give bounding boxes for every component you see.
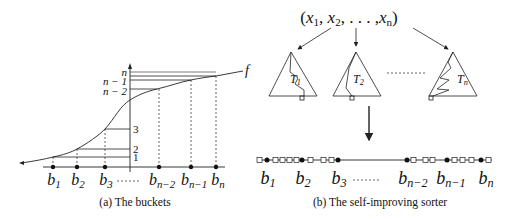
sorter-diagram [253,0,506,219]
tree-n [429,52,477,100]
tree-label-2: T2 [353,73,364,87]
panel-buckets: f n n − 1 n − 2 3 2 1 b1 b2 b3 bn−2 bn−1… [0,0,253,219]
bucket-label-bn-1: bn−1 [436,169,466,190]
x-label-bn: bn [211,172,224,190]
arrow-to-tree-1 [298,28,331,49]
x-label-b1: b1 [47,172,60,190]
arrow-to-tree-n [413,28,448,49]
curve-left-arrow-icon [19,161,24,165]
bucket-label-b1: b1 [260,169,275,190]
caption-sorter: (b) The self-improving sorter [313,196,447,208]
y-tick-3: 3 [133,124,139,135]
tree-label-1: T1 [290,73,301,87]
bucket-label-bn-2: bn−2 [398,169,428,190]
y-tick-n-minus-2: n − 2 [103,86,127,97]
panel-sorter: (x1, x2, . . . ,xn) [253,0,506,219]
tree-label-n: Tn [457,73,468,87]
caption-buckets: (a) The buckets [99,196,170,208]
y-tick-1: 1 [133,152,139,163]
x-label-bn-1: bn−1 [181,172,207,190]
function-label: f [245,64,249,78]
bucket-label-b2: b2 [295,169,310,190]
bucket-label-b3: b3 [331,169,346,190]
x-label-b3: b3 [99,172,112,190]
x-label-b2: b2 [71,172,84,190]
bucket-label-bn: bn [478,169,493,190]
x-label-bn-2: bn−2 [149,172,175,190]
y-axis-arrow-icon [128,63,132,69]
curve-f [21,71,243,163]
